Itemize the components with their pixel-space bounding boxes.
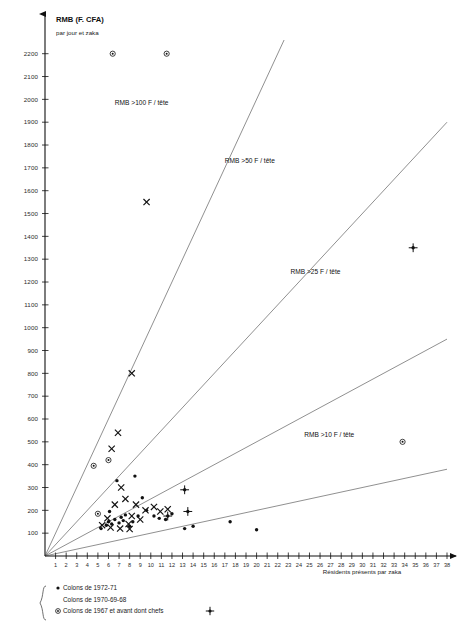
x-tick-label: 10 — [148, 562, 154, 568]
data-point-dot — [255, 528, 258, 531]
y-tick-label: 1600 — [24, 187, 39, 194]
x-tick-label: 5 — [96, 562, 99, 568]
data-point-dot — [183, 527, 186, 530]
x-tick-label: 6 — [107, 562, 110, 568]
series-x — [99, 199, 171, 532]
data-point-dot — [108, 510, 111, 513]
x-tick-label: 4 — [86, 562, 89, 568]
chart-annotations: RMB >100 F / têteRMB >50 F / têteRMB >25… — [115, 99, 355, 438]
data-point-dot — [122, 519, 125, 522]
data-point-circle-core — [112, 53, 114, 55]
y-tick-label: 1100 — [24, 301, 38, 308]
x-tick-label: 18 — [232, 562, 238, 568]
y-tick-label: 1900 — [24, 118, 39, 125]
y-tick-label: 300 — [27, 484, 38, 491]
reference-lines — [45, 40, 447, 556]
reference-line — [45, 40, 284, 556]
legend-marker-chef-core — [208, 609, 211, 612]
x-tick-label: 35 — [412, 562, 418, 568]
y-tick-label: 1200 — [24, 278, 39, 285]
annotation-label: RMB >25 F / tête — [290, 268, 340, 275]
data-point-dot — [191, 525, 194, 528]
data-point-dot — [113, 518, 116, 521]
x-tick-label: 16 — [211, 562, 217, 568]
y-tick-label: 100 — [27, 529, 38, 536]
data-point-dot — [117, 521, 120, 524]
x-tick-label: 19 — [243, 562, 249, 568]
x-tick-label: 2 — [65, 562, 68, 568]
y-tick-label: 1400 — [24, 233, 39, 240]
x-tick-label: 13 — [179, 562, 185, 568]
data-point-circle-core — [107, 459, 109, 461]
y-tick-label: 900 — [27, 347, 38, 354]
series-filled-dot — [99, 474, 258, 531]
data-point-dot — [164, 518, 167, 521]
x-tick-label: 14 — [190, 562, 196, 568]
y-tick-label: 800 — [27, 370, 38, 377]
x-tick-label: 7 — [117, 562, 120, 568]
x-tick-label: 34 — [402, 562, 408, 568]
data-point-circle-core — [97, 513, 99, 515]
data-point-dot — [119, 515, 122, 518]
scatter-plot: 1002003004005006007008009001000110012001… — [0, 0, 466, 629]
reference-line — [45, 122, 447, 556]
x-tick-label: 22 — [275, 562, 281, 568]
x-tick-label: 36 — [423, 562, 429, 568]
x-tick-label: 17 — [222, 562, 228, 568]
data-point-chef-core — [183, 488, 186, 491]
series-cross-star — [163, 243, 417, 520]
data-point-dot — [152, 514, 155, 517]
x-tick-label: 25 — [306, 562, 312, 568]
y-tick-label: 1700 — [24, 164, 39, 171]
y-tick-label: 1300 — [24, 255, 39, 262]
y-tick-label: 1000 — [24, 324, 39, 331]
x-tick-label: 15 — [201, 562, 207, 568]
data-point-dot — [133, 474, 136, 477]
chart-title-group: RMB (F. CFA) par jour et zaka Résidents … — [56, 15, 402, 575]
data-point-circle-core — [166, 53, 168, 55]
annotation-label: RMB >50 F / tête — [225, 157, 275, 164]
legend-item-label: Colons de 1967 et avant dont chefs — [63, 607, 164, 614]
data-point-dot — [228, 520, 231, 523]
y-tick-label: 1500 — [24, 210, 39, 217]
y-tick-label: 600 — [27, 415, 38, 422]
y-axis-title: RMB (F. CFA) — [56, 15, 104, 24]
y-tick-label: 200 — [27, 507, 38, 514]
data-point-dot — [158, 517, 161, 520]
reference-line — [45, 469, 447, 556]
y-tick-label: 2000 — [24, 96, 39, 103]
x-tick-label: 1 — [54, 562, 57, 568]
legend-marker-circle-core — [57, 610, 59, 612]
data-series — [91, 51, 417, 532]
legend-marker-dot — [56, 586, 59, 589]
data-point-chef-core — [186, 510, 189, 513]
data-point-dot — [115, 479, 118, 482]
y-tick-label: 500 — [27, 438, 38, 445]
x-tick-label: 3 — [75, 562, 78, 568]
annotation-label: RMB >100 F / tête — [115, 99, 169, 106]
x-axis-ticks: 1234567891011121314151617181920212223242… — [54, 553, 450, 569]
data-point-dot — [124, 513, 127, 516]
chart-canvas: 1002003004005006007008009001000110012001… — [0, 0, 466, 629]
x-tick-label: 37 — [433, 562, 439, 568]
axes — [45, 14, 456, 556]
y-tick-label: 2200 — [24, 50, 39, 57]
y-tick-label: 1800 — [24, 141, 39, 148]
y-tick-label: 400 — [27, 461, 38, 468]
annotation-label: RMB >10 F / tête — [304, 431, 354, 438]
data-point-circle-core — [402, 441, 404, 443]
x-tick-label: 9 — [139, 562, 142, 568]
x-tick-label: 11 — [158, 562, 164, 568]
x-tick-label: 8 — [128, 562, 131, 568]
reference-line — [45, 339, 447, 556]
y-axis-subtitle: par jour et zaka — [56, 29, 99, 36]
data-point-chef-core — [411, 246, 414, 249]
x-tick-label: 38 — [444, 562, 450, 568]
data-point-chef-core — [166, 514, 169, 517]
x-tick-label: 24 — [296, 562, 302, 568]
legend: Colons de 1972-71Colons de 1970-69-68Col… — [40, 584, 214, 620]
x-tick-label: 21 — [264, 562, 270, 568]
y-tick-label: 2100 — [24, 73, 39, 80]
data-point-circle-core — [93, 465, 95, 467]
data-point-dot — [170, 512, 173, 515]
